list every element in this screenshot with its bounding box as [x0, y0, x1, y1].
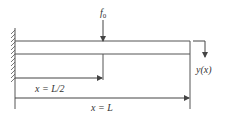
midpoint-label: x = L/2 — [34, 83, 65, 94]
beam — [15, 41, 190, 54]
length-label: x = L — [90, 102, 113, 113]
deflection-label: y(x) — [195, 64, 212, 76]
cantilever-beam-diagram: f0 x = L/2 x = L y(x) — [0, 0, 225, 115]
fixed-wall-support — [11, 28, 15, 109]
deflection-arrow — [193, 41, 205, 57]
load-label: f0 — [100, 7, 107, 20]
